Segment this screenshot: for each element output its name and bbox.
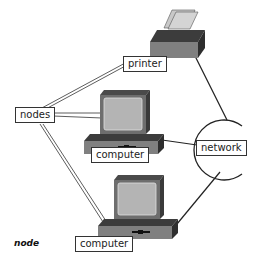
computer-label: computer <box>91 147 149 163</box>
link-computer2-network <box>172 172 220 230</box>
network-diagram <box>0 0 256 260</box>
printer-icon <box>150 10 205 58</box>
link-printer-network <box>193 52 227 120</box>
figure-caption: node <box>14 238 39 248</box>
network-label: network <box>196 140 247 156</box>
computer-icon <box>84 90 164 154</box>
nodes-label: nodes <box>15 107 55 123</box>
computer-label: computer <box>75 236 133 252</box>
computer-icon <box>98 175 178 239</box>
printer-label: printer <box>123 56 167 72</box>
